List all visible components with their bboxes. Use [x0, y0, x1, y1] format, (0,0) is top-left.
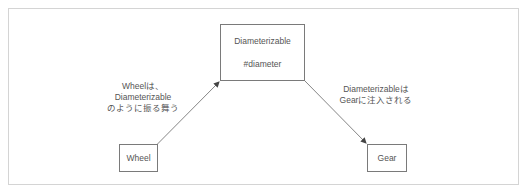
label-line: Wheelは、	[103, 81, 183, 92]
injected-into-gear-label: Diameterizableは Gearに注入される	[334, 84, 418, 106]
label-line: Diameterizableは	[334, 84, 418, 95]
wheel-behaves-like-label: Wheelは、 Diameterizable のように振る舞う	[103, 81, 183, 114]
label-line: Diameterizable	[103, 92, 183, 103]
diameter-method: #diameter	[244, 59, 282, 69]
label-line: のように振る舞う	[103, 103, 183, 114]
diameterizable-title: Diameterizable	[234, 36, 291, 46]
diameterizable-box: Diameterizable #diameter	[220, 24, 305, 81]
label-line: Gearに注入される	[334, 95, 418, 106]
wheel-box: Wheel	[119, 144, 158, 172]
gear-box: Gear	[367, 144, 407, 172]
wheel-label: Wheel	[126, 153, 150, 163]
gear-label: Gear	[378, 153, 397, 163]
